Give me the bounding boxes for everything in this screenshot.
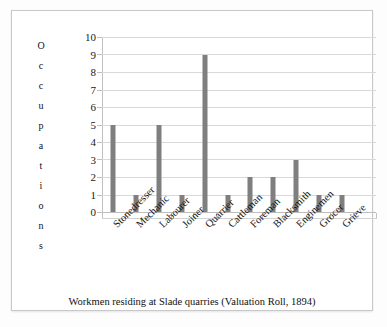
figure-page: Occupations 012345678910 StonedresserMec… [0, 0, 387, 327]
bar [111, 125, 116, 213]
gridline [102, 142, 376, 143]
y-axis-tick-label: 1 [68, 189, 96, 200]
y-axis-tick-label: 4 [68, 137, 96, 148]
y-axis-title-letter: s [39, 241, 43, 251]
y-axis-title-letter: p [39, 121, 44, 131]
y-axis-tick-mark [97, 212, 102, 213]
gridline [102, 159, 376, 160]
y-axis-title-letter: c [39, 61, 43, 71]
gridline [102, 177, 376, 178]
y-axis-tick-mark [97, 107, 102, 108]
gridline [102, 90, 376, 91]
y-axis-tick-mark [97, 90, 102, 91]
y-axis-title-letter: u [39, 101, 44, 111]
y-axis-tick-label: 7 [68, 84, 96, 95]
y-axis-title-letter: i [40, 181, 43, 191]
y-axis-tick-mark [97, 195, 102, 196]
x-axis-tick-mark [102, 213, 103, 218]
y-axis-tick-mark [97, 37, 102, 38]
y-axis-tick-label: 10 [68, 32, 96, 43]
x-axis-tick-mark [376, 213, 377, 218]
y-axis-tick-label: 6 [68, 102, 96, 113]
gridline [102, 107, 376, 108]
figure-caption: Workmen residing at Slade quarries (Valu… [12, 296, 372, 307]
y-axis-tick-mark [97, 142, 102, 143]
y-axis-tick-mark [97, 177, 102, 178]
x-axis-category-labels: StonedresserMechanicLabourerJoinerQuarri… [102, 222, 382, 292]
y-axis-title-letter: c [39, 81, 43, 91]
y-axis-title-letter: n [39, 221, 44, 231]
figure-frame: Occupations 012345678910 StonedresserMec… [11, 10, 373, 311]
plot-area [102, 37, 376, 212]
y-axis-title: Occupations [30, 41, 52, 251]
y-axis-tick-mark [97, 125, 102, 126]
y-axis-tick-label: 3 [68, 154, 96, 165]
gridline [102, 37, 376, 38]
y-axis-tick-label: 0 [68, 207, 96, 218]
y-axis-title-letter: a [39, 141, 43, 151]
y-axis-title-letter: o [39, 201, 44, 211]
y-axis-title-letter: O [37, 41, 44, 51]
gridline [102, 54, 376, 55]
y-axis-tick-label: 9 [68, 49, 96, 60]
bar [202, 55, 207, 213]
y-axis-tick-label: 8 [68, 67, 96, 78]
y-axis-tick-label: 2 [68, 172, 96, 183]
y-axis-tick-labels: 012345678910 [68, 37, 96, 212]
gridline [102, 125, 376, 126]
y-axis-tick-mark [97, 72, 102, 73]
y-axis-title-letter: t [40, 161, 43, 171]
gridline [102, 72, 376, 73]
y-axis-tick-mark [97, 54, 102, 55]
y-axis-tick-mark [97, 159, 102, 160]
y-axis-tick-label: 5 [68, 119, 96, 130]
